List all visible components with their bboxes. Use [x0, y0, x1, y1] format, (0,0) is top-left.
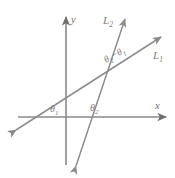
figure-canvas: y x L1 L2 θ1 θ2 θ2−θ1: [0, 0, 175, 178]
l2-label-subscript: 2: [109, 20, 113, 29]
line-l2: [76, 19, 125, 166]
geometry-figure: y x L1 L2 θ1 θ2 θ2−θ1: [0, 0, 175, 178]
line-l1: [16, 37, 161, 130]
svg-text:θ1: θ1: [50, 103, 58, 117]
theta-1-subscript: 1: [55, 109, 59, 117]
l2-label-letter: L: [102, 14, 109, 26]
theta-2-subscript: 2: [95, 108, 99, 116]
y-axis-label: y: [70, 14, 76, 25]
angle-theta-2: θ2: [90, 102, 99, 116]
line-l1-label: L1: [152, 49, 163, 64]
angle-theta-1: θ1: [50, 103, 58, 117]
svg-text:L1: L1: [152, 49, 163, 64]
svg-text:θ2−θ1: θ2−θ1: [102, 45, 128, 66]
svg-text:L2: L2: [102, 14, 113, 29]
angle-difference-label: θ2−θ1: [102, 45, 128, 66]
l1-label-letter: L: [152, 49, 159, 61]
line-l2-label: L2: [102, 14, 113, 29]
x-axis-label: x: [154, 100, 160, 111]
l1-label-subscript: 1: [159, 55, 163, 64]
svg-text:θ2: θ2: [90, 102, 99, 116]
